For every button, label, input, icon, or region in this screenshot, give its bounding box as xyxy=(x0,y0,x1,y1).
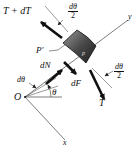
top-half-angle-pointer xyxy=(58,20,63,25)
top-half-angle-fraction: dθ 2 xyxy=(68,3,78,20)
tension-bottom-arrow xyxy=(90,70,104,99)
theta-label: θ xyxy=(52,88,56,97)
element-label: p xyxy=(82,50,85,56)
p-prime-leader xyxy=(49,50,58,51)
bottom-half-angle-pointer xyxy=(105,71,113,76)
theta-arc xyxy=(48,85,51,97)
normal-force-arrow xyxy=(46,70,62,84)
x-axis-line xyxy=(25,97,65,140)
origin-point xyxy=(24,96,26,98)
belt-element xyxy=(63,30,96,63)
tension-bottom-label: T xyxy=(99,98,105,108)
bottom-half-angle-fraction: dθ 2 xyxy=(114,63,124,80)
y-axis-label: y xyxy=(128,13,132,21)
dtheta-label: dθ xyxy=(17,76,25,84)
bottom-half-angle-denominator: 2 xyxy=(114,72,124,80)
normal-force-label: dN xyxy=(40,61,51,70)
tension-top-label: T + dT xyxy=(3,6,31,16)
x-axis-label: x xyxy=(63,139,67,147)
friction-force-arrow xyxy=(64,62,76,74)
top-half-angle-denominator: 2 xyxy=(68,12,78,20)
dtheta-pointer xyxy=(29,83,36,88)
point-p-prime-label: P' xyxy=(36,46,43,55)
origin-label: O xyxy=(14,92,21,102)
friction-force-label: dF xyxy=(71,79,81,88)
